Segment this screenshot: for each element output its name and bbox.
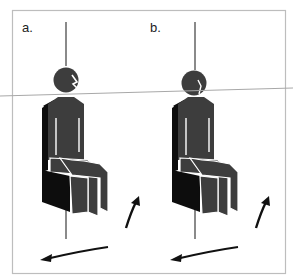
panel-label-b: b. xyxy=(150,20,161,35)
horizon-line xyxy=(0,88,293,96)
head-icon xyxy=(182,71,207,96)
seated-person-icon xyxy=(172,97,238,216)
illustration: a. xyxy=(0,0,293,280)
panel-label-a: a. xyxy=(22,20,33,35)
panel-a: a. xyxy=(22,20,140,262)
head-icon xyxy=(54,68,79,93)
seated-person-icon xyxy=(42,97,108,216)
panel-b: b. xyxy=(150,20,270,262)
figure-canvas: a. xyxy=(0,0,293,280)
